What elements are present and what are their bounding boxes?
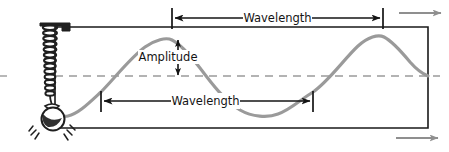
- wave-diagram: Wavelength Wavelength Amplitude: [0, 0, 449, 152]
- wavelength-top-label: Wavelength: [243, 11, 311, 25]
- wavelength-bottom-label: Wavelength: [171, 94, 239, 108]
- spring-oscillator: [29, 23, 75, 140]
- diagram-frame: [55, 27, 428, 128]
- wavelength-top-annotation: Wavelength: [172, 8, 383, 29]
- amplitude-label: Amplitude: [139, 50, 198, 64]
- wavelength-bottom-annotation: Wavelength: [101, 91, 313, 112]
- frame-rectangle: [55, 27, 428, 128]
